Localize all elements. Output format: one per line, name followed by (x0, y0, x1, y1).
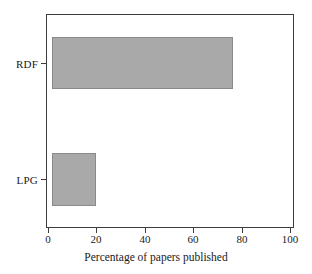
x-tick-label-80: 80 (222, 234, 262, 245)
y-tick-label-lpg: LPG (17, 175, 38, 186)
bar-rdf (52, 37, 233, 89)
x-tick-label-40: 40 (125, 234, 165, 245)
x-tick-label-100: 100 (270, 234, 310, 245)
y-tick-label-rdf: RDF (16, 59, 38, 70)
x-tick-label-60: 60 (173, 234, 213, 245)
x-tick-label-20: 20 (76, 234, 116, 245)
x-tick-label-0: 0 (28, 234, 68, 245)
y-axis-tick-labels: RDF LPG (0, 0, 38, 274)
bar-lpg (52, 153, 96, 206)
plot-area (46, 14, 294, 228)
x-axis-title: Percentage of papers published (0, 252, 312, 264)
bar-chart-figure: RDF LPG 0 20 40 60 80 100 Percentage of … (0, 0, 312, 274)
